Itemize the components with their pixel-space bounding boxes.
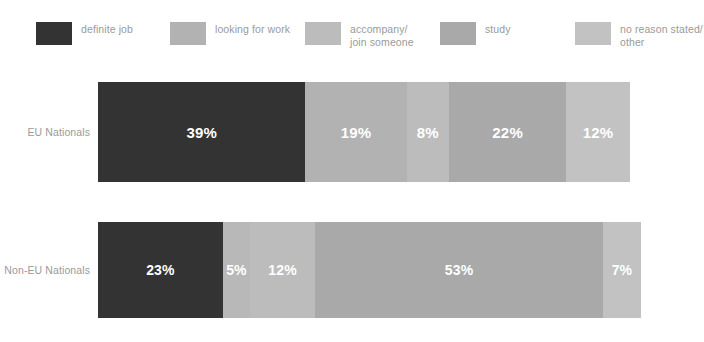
bar-segment[interactable]: 12% bbox=[566, 82, 630, 182]
bar-segment[interactable]: 7% bbox=[603, 222, 641, 318]
bar-category-label: EU Nationals bbox=[0, 126, 98, 138]
bar-category-label: Non-EU Nationals bbox=[0, 264, 98, 276]
bar-segment-value: 53% bbox=[445, 262, 474, 278]
legend-swatch-icon bbox=[440, 22, 476, 45]
legend-item-label: study bbox=[485, 22, 511, 36]
bar-segment-value: 19% bbox=[341, 124, 372, 141]
bar-segment-value: 5% bbox=[226, 262, 247, 278]
bar-segment-value: 7% bbox=[612, 262, 633, 278]
bar-segment[interactable]: 19% bbox=[305, 82, 406, 182]
bar-segment[interactable]: 53% bbox=[315, 222, 603, 318]
legend-item-label: definite job bbox=[81, 22, 133, 36]
bar-segment[interactable]: 8% bbox=[407, 82, 450, 182]
legend-item-3: study bbox=[440, 22, 511, 45]
legend-swatch-icon bbox=[36, 22, 72, 45]
bar-segment-value: 22% bbox=[492, 124, 523, 141]
bar-segment[interactable]: 12% bbox=[250, 222, 315, 318]
bar-track: 23%5%12%53%7% bbox=[98, 222, 641, 318]
bar-row: Non-EU Nationals23%5%12%53%7% bbox=[0, 222, 704, 318]
bar-segment-value: 23% bbox=[146, 262, 175, 278]
legend-item-1: looking for work bbox=[170, 22, 290, 45]
legend-swatch-icon bbox=[305, 22, 341, 45]
bar-segment[interactable]: 39% bbox=[98, 82, 305, 182]
bar-segment-value: 8% bbox=[417, 124, 439, 141]
legend-item-2: accompany/ join someone bbox=[305, 22, 414, 48]
bar-segment[interactable]: 22% bbox=[449, 82, 566, 182]
bar-track: 39%19%8%22%12% bbox=[98, 82, 630, 182]
legend-swatch-icon bbox=[170, 22, 206, 45]
bar-segment[interactable]: 5% bbox=[223, 222, 250, 318]
legend-item-label: accompany/ join someone bbox=[350, 22, 414, 48]
bar-segment-value: 39% bbox=[186, 124, 217, 141]
legend-item-0: definite job bbox=[36, 22, 133, 45]
legend-item-label: no reason stated/ other bbox=[620, 22, 703, 48]
stacked-bar-chart: EU Nationals39%19%8%22%12%Non-EU Nationa… bbox=[0, 72, 704, 342]
bar-segment[interactable]: 23% bbox=[98, 222, 223, 318]
chart-legend: definite joblooking for workaccompany/ j… bbox=[0, 0, 704, 72]
bar-row: EU Nationals39%19%8%22%12% bbox=[0, 82, 704, 182]
legend-item-label: looking for work bbox=[215, 22, 290, 36]
bar-segment-value: 12% bbox=[268, 262, 297, 278]
legend-item-4: no reason stated/ other bbox=[575, 22, 703, 48]
bar-segment-value: 12% bbox=[583, 124, 614, 141]
legend-swatch-icon bbox=[575, 22, 611, 45]
